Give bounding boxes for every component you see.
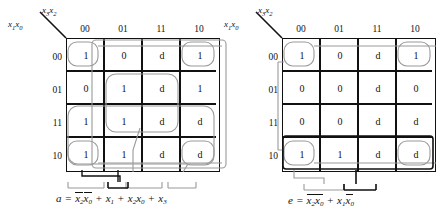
group-e-1-right-bot bbox=[398, 141, 430, 165]
group-e-1-left-top bbox=[284, 42, 314, 66]
group-a-1-left-bot bbox=[68, 141, 98, 165]
group-a-2 bbox=[68, 106, 214, 164]
group-a-1-right-bot bbox=[182, 141, 214, 165]
group-a-4 bbox=[92, 40, 226, 168]
leader-a-3 bbox=[133, 128, 140, 172]
leader-a-1 bbox=[82, 170, 120, 182]
brace-a-3 bbox=[126, 182, 162, 188]
group-e-1-left-bot bbox=[284, 141, 314, 165]
group-a-1-left-top bbox=[68, 42, 98, 66]
leader-e-1 bbox=[294, 170, 324, 184]
brace-e-1 bbox=[304, 184, 344, 190]
kmap-e: x3x2 x1x0 00 01 11 10 00 01 11 10 1 0 d … bbox=[216, 0, 432, 217]
brace-a-4 bbox=[168, 182, 196, 188]
equation-e: e = x2x0 + x1x0 bbox=[288, 194, 354, 208]
kmap-groups-e bbox=[216, 0, 432, 217]
kmap-groups-a bbox=[0, 0, 216, 217]
equation-a: a = x2x0 + x1 + x2x0 + x3 bbox=[56, 192, 167, 206]
brace-a-2 bbox=[108, 182, 128, 188]
group-a-3 bbox=[106, 74, 178, 132]
kmap-a: x3x2 x1x0 00 01 11 10 00 01 11 10 1 0 d … bbox=[0, 0, 216, 217]
brace-a-1 bbox=[68, 182, 104, 188]
brace-e-2 bbox=[344, 184, 376, 190]
